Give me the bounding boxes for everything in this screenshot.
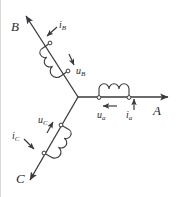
phase-c-line-group bbox=[30, 97, 78, 180]
u-b-arrow bbox=[69, 54, 74, 65]
voltage-label-uc-sub: C bbox=[43, 119, 48, 127]
current-label-ia-sub: a bbox=[129, 114, 133, 122]
voltage-label-uc: uC bbox=[38, 115, 48, 125]
current-label-ic: iC bbox=[12, 131, 19, 141]
phase-c-inductor-coil bbox=[51, 129, 71, 158]
circuit-schematic-canvas bbox=[0, 0, 180, 197]
phase-c-terminal-dot-top bbox=[59, 123, 63, 127]
voltage-label-ua: ua bbox=[97, 110, 106, 120]
voltage-label-ub-sub: B bbox=[81, 70, 85, 78]
phase-a-terminal-dot-left bbox=[97, 96, 101, 100]
voltage-label-ub: uB bbox=[76, 66, 85, 76]
phase-b-terminal-dot-top bbox=[48, 41, 52, 45]
current-label-ic-sub: C bbox=[15, 135, 20, 143]
phase-b-coil-group bbox=[40, 41, 70, 77]
circuit-diagram-figure: A B C ua ia iB uB uC iC bbox=[0, 0, 180, 197]
phase-b-terminal-dot-bottom bbox=[66, 69, 70, 73]
voltage-label-ua-sub: a bbox=[102, 114, 106, 122]
i-c-arrow bbox=[24, 139, 34, 149]
current-label-ib: iB bbox=[59, 20, 66, 30]
terminal-label-c: C bbox=[16, 172, 25, 185]
current-label-ib-sub: B bbox=[62, 24, 66, 32]
phase-a-terminal-dot-right bbox=[127, 96, 131, 100]
phase-a-inductor-coil bbox=[99, 84, 129, 89]
phase-b-inductor-coil bbox=[40, 48, 61, 77]
i-b-arrow bbox=[47, 27, 57, 36]
terminal-label-b: B bbox=[11, 20, 19, 33]
current-label-ia: ia bbox=[126, 110, 132, 120]
phase-c-coil-group bbox=[42, 123, 71, 158]
phase-c-main-line bbox=[30, 97, 78, 180]
phase-c-terminal-dot-bottom bbox=[42, 151, 46, 155]
terminal-label-a: A bbox=[153, 104, 161, 117]
